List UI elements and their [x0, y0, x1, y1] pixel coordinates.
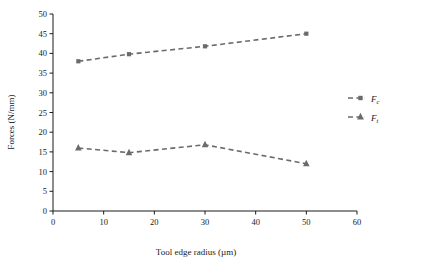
y-tick-label: 30: [39, 88, 48, 98]
x-tick-label: 60: [353, 217, 362, 227]
data-point-marker-square: [203, 44, 207, 48]
data-point-marker-square: [76, 59, 80, 63]
x-tick-label: 10: [99, 217, 108, 227]
y-tick-label: 45: [39, 29, 48, 39]
x-axis-title: Tool edge radius (µm): [156, 247, 236, 257]
data-point-marker-square: [127, 52, 131, 56]
chart-container: 05101520253035404550 0102030405060 FcFt …: [0, 0, 422, 268]
legend-label-subscript: t: [377, 117, 379, 124]
legend-label-subscript: c: [377, 98, 380, 105]
y-tick-label: 20: [39, 127, 48, 137]
data-point-marker-square: [358, 96, 362, 100]
y-tick-label: 10: [39, 167, 48, 177]
y-tick-label: 5: [43, 186, 47, 196]
x-tick-label: 20: [150, 217, 159, 227]
y-tick-label: 25: [39, 108, 48, 118]
y-axis-title: Forces (N/mm): [6, 94, 16, 149]
x-tick-label: 40: [251, 217, 260, 227]
y-tick-label: 40: [39, 48, 48, 58]
x-tick-label: 30: [201, 217, 210, 227]
forces-vs-tool-edge-radius-chart: 05101520253035404550 0102030405060 FcFt …: [0, 0, 422, 268]
x-tick-label: 50: [302, 217, 311, 227]
y-tick-label: 35: [39, 68, 48, 78]
y-tick-label: 15: [39, 147, 48, 157]
x-tick-label: 0: [51, 217, 55, 227]
chart-background: [0, 0, 422, 268]
y-tick-label: 50: [39, 9, 48, 19]
data-point-marker-square: [304, 32, 308, 36]
y-tick-label: 0: [43, 206, 47, 216]
